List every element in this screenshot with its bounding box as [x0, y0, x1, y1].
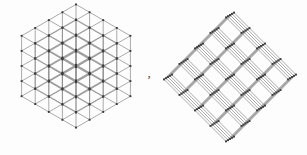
diagonal-square-lattice-svg: [152, 0, 307, 155]
figure-panel-diagonal-square-lattice: [152, 0, 307, 155]
figure-plate: ,: [0, 0, 307, 155]
figure-panel-isometric-cubic-lattice: [0, 0, 152, 155]
isometric-cubic-lattice-svg: [0, 0, 152, 155]
